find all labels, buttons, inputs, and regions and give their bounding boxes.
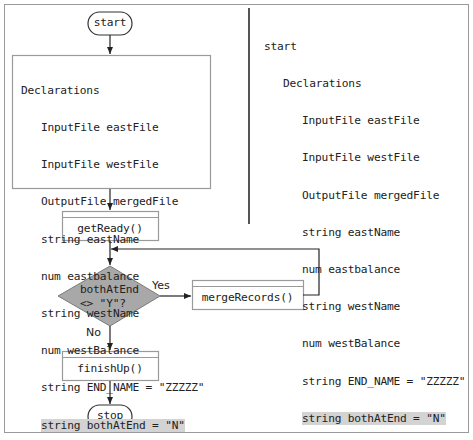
declaration-line: OutputFile mergedFile: [41, 195, 178, 208]
decision-line-2: <> "Y"?: [60, 297, 160, 310]
pseudocode-line: OutputFile mergedFile: [302, 189, 439, 202]
pseudocode-line: num eastbalance: [302, 263, 400, 276]
declaration-line: string END_NAME = "ZZZZZ": [41, 381, 204, 394]
pseudocode: start Declarations InputFile eastFile In…: [264, 16, 465, 440]
declaration-line: num eastbalance: [41, 270, 139, 283]
declaration-line-highlighted: string bothAtEnd = "N": [41, 419, 185, 432]
decision-line-1: bothAtEnd: [60, 283, 160, 296]
declaration-line: num westBalance: [41, 344, 139, 357]
declaration-line: InputFile westFile: [41, 158, 159, 171]
yes-label: Yes: [152, 279, 170, 292]
pseudocode-line-highlighted: string bothAtEnd = "N": [302, 412, 446, 425]
finish-up-label: finishUp(): [62, 362, 158, 375]
pseudocode-line: string END_NAME = "ZZZZZ": [302, 375, 465, 388]
pseudocode-line: string eastName: [302, 226, 400, 239]
no-label: No: [86, 326, 101, 339]
pseudocode-line: Declarations: [283, 77, 361, 90]
pseudocode-line: start: [264, 40, 297, 53]
get-ready-label: getReady(): [62, 222, 158, 235]
start-label: start: [88, 16, 132, 29]
pseudocode-line: string westName: [302, 300, 400, 313]
pseudocode-line: InputFile eastFile: [302, 114, 420, 127]
declarations-title: Declarations: [21, 85, 204, 97]
pseudocode-line: InputFile westFile: [302, 151, 420, 164]
declaration-line: InputFile eastFile: [41, 121, 159, 134]
pseudocode-line: num westBalance: [302, 337, 400, 350]
declarations-text: Declarations InputFile eastFile InputFil…: [21, 60, 204, 440]
